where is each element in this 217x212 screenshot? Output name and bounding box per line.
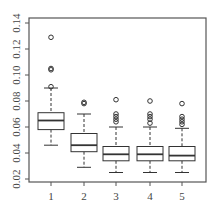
box-2	[71, 100, 97, 167]
x-axis: 12345	[48, 182, 185, 202]
x-tick-label: 4	[147, 190, 153, 202]
outlier-point	[148, 99, 153, 104]
outlier-point	[49, 35, 54, 40]
y-tick-label: 0.04	[10, 143, 22, 163]
y-tick-label: 0.10	[10, 65, 22, 85]
box-series	[38, 35, 195, 173]
y-tick-label: 0.12	[10, 39, 22, 58]
box-1	[38, 35, 64, 145]
iqr-box	[71, 134, 97, 152]
iqr-box	[169, 147, 195, 161]
outlier-point	[180, 101, 185, 106]
x-tick-label: 5	[179, 190, 185, 202]
outlier-point	[114, 97, 119, 102]
box-5	[169, 101, 195, 172]
box-4	[137, 99, 163, 173]
box-3	[103, 97, 129, 172]
y-tick-label: 0.06	[10, 117, 22, 137]
y-tick-label: 0.14	[10, 13, 22, 33]
y-tick-label: 0.08	[10, 91, 22, 111]
x-tick-label: 3	[113, 190, 119, 202]
x-tick-label: 2	[81, 190, 87, 202]
x-tick-label: 1	[48, 190, 54, 202]
y-tick-label: 0.02	[10, 169, 22, 188]
box-plot-chart: 0.020.040.060.080.100.120.14 12345	[0, 0, 217, 212]
y-axis: 0.020.040.060.080.100.120.14	[10, 13, 29, 189]
